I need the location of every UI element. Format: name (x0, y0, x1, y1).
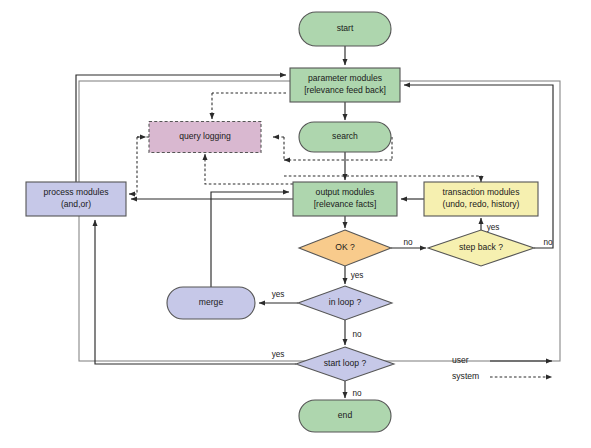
edge-to-transaction-dashed (284, 176, 481, 182)
edge-label: yes (351, 271, 364, 280)
edge-merge-to-output (211, 192, 289, 287)
node-sublabel: (and,or) (61, 199, 91, 209)
edge-label: yes (272, 350, 285, 359)
edge-label: no (352, 389, 362, 398)
edge-output-to-query-dashed (205, 154, 293, 184)
node-sublabel: [relevance facts] (314, 199, 377, 209)
edge-label: yes (487, 223, 500, 232)
node-label: start loop ? (324, 358, 367, 368)
node-sublabel: [relevance feed back] (304, 85, 386, 95)
node-merge[interactable]: merge (167, 287, 255, 319)
node-label: parameter modules (308, 73, 382, 83)
node-stepback[interactable]: step back ? (428, 230, 534, 266)
node-label: process modules (44, 187, 109, 197)
node-label: query logging (179, 131, 231, 141)
node-transaction[interactable]: transaction modules(undo, redo, history) (424, 182, 538, 216)
node-label: end (338, 410, 353, 420)
node-inloop[interactable]: in loop ? (298, 286, 392, 320)
edge-label: no (403, 238, 413, 247)
node-sublabel: (undo, redo, history) (443, 199, 520, 209)
node-start[interactable]: start (299, 12, 391, 46)
node-label: merge (199, 297, 224, 307)
node-label: step back ? (459, 242, 503, 252)
node-output[interactable]: output modules[relevance facts] (293, 182, 397, 216)
edge-stepback-no-to-parameter (404, 85, 553, 248)
edge-label: no (543, 238, 553, 247)
node-ok[interactable]: OK ? (299, 230, 391, 266)
node-search[interactable]: search (299, 122, 391, 152)
node-label: in loop ? (329, 297, 362, 307)
node-query[interactable]: query logging (149, 122, 261, 153)
node-label: search (332, 131, 358, 141)
node-label: OK ? (335, 242, 355, 252)
flowchart-svg: startparameter modules[relevance feed ba… (0, 0, 591, 448)
node-parameter[interactable]: parameter modules[relevance feed back] (290, 68, 400, 102)
node-process[interactable]: process modules(and,or) (26, 182, 126, 216)
node-label: output modules (316, 187, 375, 197)
node-label: start (337, 23, 354, 33)
flowchart-canvas: startparameter modules[relevance feed ba… (0, 0, 591, 448)
legend: usersystem (452, 355, 552, 381)
node-label: transaction modules (443, 187, 520, 197)
node-end[interactable]: end (299, 400, 391, 432)
node-startloop[interactable]: start loop ? (296, 347, 394, 381)
edge-label: no (352, 330, 362, 339)
legend-label-user: user (452, 355, 469, 365)
legend-label-system: system (452, 371, 479, 381)
edge-query-left-rail-dashed (129, 137, 137, 194)
edge-label: yes (272, 290, 285, 299)
